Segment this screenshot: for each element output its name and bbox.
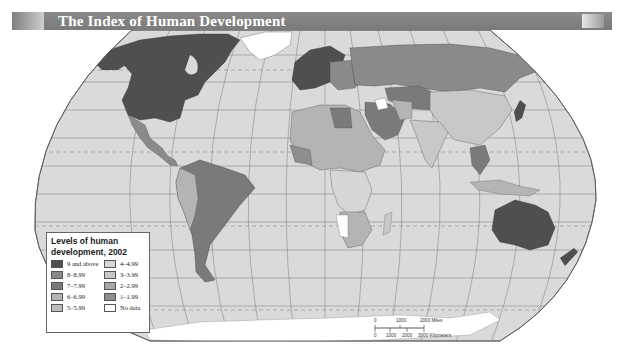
- scale-km-1000: 1000: [386, 333, 396, 338]
- title-decoration-right: [582, 14, 604, 28]
- legend-items: 9 and above 4–4.99 8–8.99 3–3.99 7–7.99 …: [51, 259, 146, 312]
- world-map: Levels of human development, 2002 9 and …: [0, 30, 624, 351]
- legend-title-line1: Levels of human: [51, 236, 146, 247]
- legend-label: 7–7.99: [67, 282, 85, 289]
- legend-swatch: [51, 271, 63, 279]
- legend-item: 1–1.99: [104, 292, 150, 301]
- scale-km-2000: 2000: [402, 333, 412, 338]
- legend-label: 9 and above: [67, 260, 98, 267]
- legend-swatch: [104, 271, 116, 279]
- legend-item: 4–4.99: [104, 259, 150, 268]
- legend-swatch: [104, 282, 116, 290]
- legend-swatch: [51, 260, 63, 268]
- legend-item: 8–8.99: [51, 270, 104, 279]
- title-bar: The Index of Human Development: [12, 12, 612, 30]
- scale-miles-0: 0: [374, 318, 377, 323]
- title-decoration-left: [12, 12, 44, 30]
- legend-item: 7–7.99: [51, 281, 104, 290]
- legend-swatch: [104, 304, 116, 312]
- scale-miles-1000: 1000: [396, 318, 406, 323]
- legend: Levels of human development, 2002 9 and …: [46, 232, 150, 333]
- legend-item: 6–6.99: [51, 292, 104, 301]
- scale-bar: 0 1000 2000 Miles 0 1000 2000 3000 Kilom…: [372, 318, 492, 340]
- legend-label: 6–6.99: [67, 293, 85, 300]
- legend-label: 1–1.99: [120, 293, 138, 300]
- legend-label: 2–2.99: [120, 282, 138, 289]
- legend-item: 2–2.99: [104, 281, 150, 290]
- scale-miles-2000: 2000 Miles: [420, 318, 442, 323]
- legend-title-line2: development, 2002: [51, 247, 146, 258]
- scale-km-3000: 3000 Kilometers: [418, 333, 451, 338]
- legend-label: 5–5.99: [67, 304, 85, 311]
- legend-swatch: [51, 304, 63, 312]
- legend-item: No data: [104, 303, 150, 312]
- legend-swatch: [51, 293, 63, 301]
- legend-label: 3–3.99: [120, 271, 138, 278]
- legend-label: No data: [120, 304, 140, 311]
- legend-swatch: [104, 260, 116, 268]
- legend-swatch: [51, 282, 63, 290]
- scale-km-0: 0: [374, 333, 377, 338]
- legend-label: 8–8.99: [67, 271, 85, 278]
- map-title: The Index of Human Development: [58, 12, 286, 30]
- legend-label: 4–4.99: [120, 260, 138, 267]
- legend-swatch: [104, 293, 116, 301]
- legend-item: 3–3.99: [104, 270, 150, 279]
- legend-item: 5–5.99: [51, 303, 104, 312]
- legend-item: 9 and above: [51, 259, 104, 268]
